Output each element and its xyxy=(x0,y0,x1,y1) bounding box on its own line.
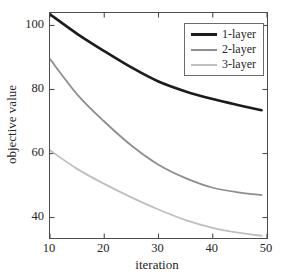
legend-line-sample xyxy=(191,49,217,51)
x-tick-label: 10 xyxy=(34,241,64,256)
x-axis-label: iteration xyxy=(97,257,217,273)
legend-item-2-layer: 2-layer xyxy=(191,43,256,56)
y-tick-label: 60 xyxy=(12,145,44,160)
x-tick-label: 20 xyxy=(88,241,118,256)
legend: 1-layer2-layer3-layer xyxy=(184,23,264,76)
legend-item-1-layer: 1-layer xyxy=(191,28,256,41)
x-tick-label: 30 xyxy=(143,241,173,256)
line-chart-figure: objective value 1-layer2-layer3-layer it… xyxy=(0,0,289,280)
y-tick-label: 80 xyxy=(12,81,44,96)
legend-label: 3-layer xyxy=(222,58,256,71)
y-axis-label: objective value xyxy=(4,12,19,237)
legend-line-sample xyxy=(191,64,217,66)
legend-label: 2-layer xyxy=(222,43,256,56)
plot-area: 1-layer2-layer3-layer xyxy=(49,12,268,239)
legend-label: 1-layer xyxy=(222,28,256,41)
legend-line-sample xyxy=(191,33,217,36)
x-tick-label: 50 xyxy=(251,241,281,256)
y-tick-label: 40 xyxy=(12,209,44,224)
y-tick-label: 100 xyxy=(12,17,44,32)
legend-item-3-layer: 3-layer xyxy=(191,58,256,71)
x-tick-label: 40 xyxy=(197,241,227,256)
